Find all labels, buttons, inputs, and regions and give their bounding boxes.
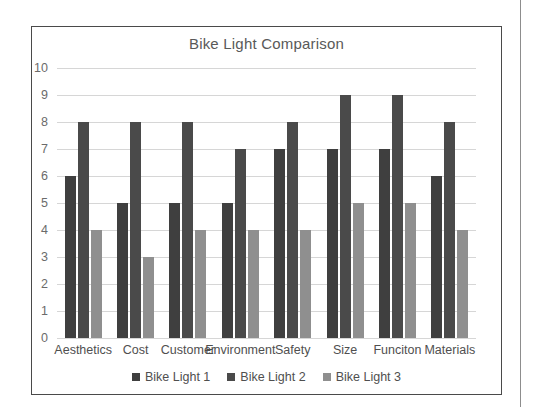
chart-legend: Bike Light 1Bike Light 2Bike Light 3	[32, 370, 501, 384]
bar	[340, 95, 351, 338]
bar-group: Customer	[162, 68, 214, 338]
bar	[379, 149, 390, 338]
bar-group: Cost	[109, 68, 161, 338]
chart-frame: Bike Light Comparison 012345678910 Aesth…	[31, 26, 502, 395]
legend-item[interactable]: Bike Light 1	[132, 370, 210, 384]
y-axis-tick-label: 2	[41, 277, 48, 291]
y-axis-tick-label: 10	[34, 61, 48, 75]
x-axis-tick-label: Size	[333, 343, 357, 357]
bar	[353, 203, 364, 338]
x-axis-tick-label: Cost	[123, 343, 149, 357]
legend-item[interactable]: Bike Light 2	[227, 370, 305, 384]
bar-group: Environment	[214, 68, 266, 338]
y-axis-tick-label: 8	[41, 115, 48, 129]
bar	[169, 203, 180, 338]
bar	[274, 149, 285, 338]
bar	[392, 95, 403, 338]
y-axis-tick-label: 9	[41, 88, 48, 102]
bar	[431, 176, 442, 338]
bar	[457, 230, 468, 338]
bar	[222, 203, 233, 338]
bar	[182, 122, 193, 338]
y-axis-tick-label: 5	[41, 196, 48, 210]
legend-swatch-icon	[132, 373, 140, 381]
y-axis-tick-label: 7	[41, 142, 48, 156]
bar-group: Materials	[424, 68, 476, 338]
page-edge-rule	[520, 0, 521, 407]
plot-area: 012345678910 AestheticsCostCustomerEnvir…	[57, 68, 476, 338]
bar	[130, 122, 141, 338]
bar-group: Size	[319, 68, 371, 338]
bar	[405, 203, 416, 338]
legend-swatch-icon	[227, 373, 235, 381]
x-axis-tick-label: Materials	[424, 343, 475, 357]
bar	[91, 230, 102, 338]
legend-item[interactable]: Bike Light 3	[323, 370, 401, 384]
chart-title: Bike Light Comparison	[32, 35, 501, 52]
bar	[235, 149, 246, 338]
bar	[78, 122, 89, 338]
y-axis-tick-label: 3	[41, 250, 48, 264]
x-axis-tick-label: Aesthetics	[54, 343, 112, 357]
bar-group: Aesthetics	[57, 68, 109, 338]
x-axis-tick-label: Funciton	[373, 343, 421, 357]
bar	[117, 203, 128, 338]
bar	[287, 122, 298, 338]
bar	[143, 257, 154, 338]
bar-group: Safety	[267, 68, 319, 338]
gridline	[57, 338, 476, 339]
bar-group: Funciton	[371, 68, 423, 338]
y-axis-tick-label: 6	[41, 169, 48, 183]
bar	[65, 176, 76, 338]
legend-label: Bike Light 1	[145, 370, 210, 384]
y-axis-tick-label: 0	[41, 331, 48, 345]
bar	[195, 230, 206, 338]
legend-label: Bike Light 3	[336, 370, 401, 384]
bars-layer: AestheticsCostCustomerEnvironmentSafetyS…	[57, 68, 476, 338]
y-axis-tick-label: 1	[41, 304, 48, 318]
y-axis-tick-label: 4	[41, 223, 48, 237]
legend-label: Bike Light 2	[240, 370, 305, 384]
legend-swatch-icon	[323, 373, 331, 381]
bar	[248, 230, 259, 338]
bar	[444, 122, 455, 338]
bar	[300, 230, 311, 338]
x-axis-tick-label: Safety	[275, 343, 310, 357]
x-axis-tick-label: Environment	[205, 343, 275, 357]
bar	[327, 149, 338, 338]
